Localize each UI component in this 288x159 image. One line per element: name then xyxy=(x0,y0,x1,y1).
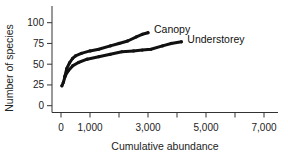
data-point xyxy=(68,61,71,64)
data-point xyxy=(77,61,80,64)
data-point xyxy=(146,31,149,34)
data-point xyxy=(132,49,135,52)
y-tick-label: 25 xyxy=(33,79,45,90)
data-point xyxy=(117,42,120,45)
y-tick-label: 75 xyxy=(33,38,45,49)
data-point xyxy=(67,69,70,72)
data-point xyxy=(109,53,112,56)
data-point xyxy=(64,74,67,77)
y-axis-label: Number of species xyxy=(3,24,15,112)
data-point xyxy=(109,44,112,47)
data-point xyxy=(71,64,74,67)
x-tick-label: 1,000 xyxy=(77,122,102,133)
data-point xyxy=(135,35,138,38)
data-point xyxy=(126,39,129,42)
data-point xyxy=(80,52,83,55)
data-point xyxy=(74,54,77,57)
data-point xyxy=(97,48,100,51)
data-point xyxy=(120,50,123,53)
y-tick-label: 100 xyxy=(27,17,44,28)
data-point xyxy=(141,48,144,51)
x-tick-label: 3,000 xyxy=(135,122,160,133)
x-tick-label: 7,000 xyxy=(251,122,276,133)
x-tick-label: 0 xyxy=(58,122,64,133)
series-label-canopy: Canopy xyxy=(154,23,191,35)
data-point xyxy=(60,84,63,87)
data-point xyxy=(62,81,65,84)
data-point xyxy=(149,48,152,51)
x-axis: 01,0003,0005,0007,000 xyxy=(52,113,278,133)
data-point xyxy=(88,49,91,52)
x-axis-label: Cumulative abundance xyxy=(111,140,219,152)
y-tick-label: 50 xyxy=(33,59,45,70)
y-axis: 0255075100 xyxy=(27,6,52,113)
x-tick-label: 5,000 xyxy=(193,122,218,133)
series-label-understorey: Understorey xyxy=(187,33,245,45)
data-point xyxy=(170,42,173,45)
data-point xyxy=(180,40,183,43)
data-point xyxy=(161,44,164,47)
data-point xyxy=(97,55,100,58)
data-point xyxy=(71,57,74,60)
data-point xyxy=(86,58,89,61)
species-accumulation-chart: 0255075100 01,0003,0005,0007,000 CanopyU… xyxy=(0,0,288,159)
data-point xyxy=(141,33,144,36)
series-line-understorey xyxy=(62,42,181,86)
series-layer: CanopyUnderstorey xyxy=(60,23,245,88)
y-tick-label: 0 xyxy=(38,100,44,111)
